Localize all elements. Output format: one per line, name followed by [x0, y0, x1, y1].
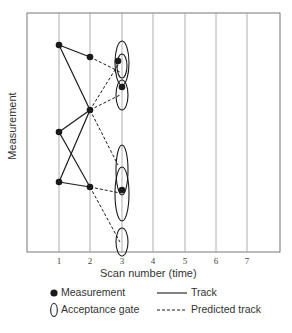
legend-gate-label: Acceptance gate — [61, 303, 139, 315]
tracking-diagram — [0, 0, 292, 333]
legend-predicted-label: Predicted track — [191, 303, 261, 315]
x-tick-5: 5 — [180, 256, 190, 266]
scan-gridlines — [59, 13, 247, 252]
y-axis-label: Measurement — [6, 86, 18, 166]
legend-measurement-label: Measurement — [61, 286, 125, 298]
legend-measurement-icon — [50, 289, 57, 296]
predicted-tracks — [90, 57, 120, 242]
legend-track-label: Track — [191, 286, 217, 298]
x-tick-3: 3 — [117, 256, 127, 266]
legend-acceptance-gate: Acceptance gate — [61, 303, 139, 315]
legend-predicted-track: Predicted track — [191, 303, 261, 315]
tracks — [59, 45, 90, 187]
x-tick-1: 1 — [54, 256, 64, 266]
x-tick-4: 4 — [148, 256, 158, 266]
legend-measurement: Measurement — [61, 286, 125, 298]
x-axis-label: Scan number (time) — [100, 267, 197, 279]
x-tick-6: 6 — [211, 256, 221, 266]
plot-frame — [27, 13, 280, 252]
legend-track: Track — [191, 286, 217, 298]
x-tick-2: 2 — [85, 256, 95, 266]
legend-gate-icon — [51, 304, 58, 317]
x-tick-7: 7 — [242, 256, 252, 266]
